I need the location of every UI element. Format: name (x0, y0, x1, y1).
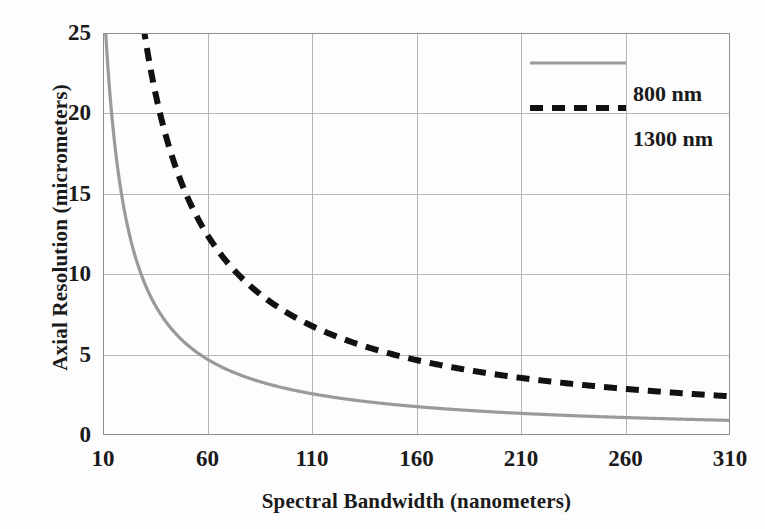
x-tick-label: 160 (382, 447, 452, 470)
x-tick-label: 310 (695, 447, 765, 470)
chart-figure: Axial Resolution (micrometers) Spectral … (0, 0, 765, 529)
legend-label-800nm: 800 nm (633, 81, 702, 107)
x-tick-label: 110 (277, 447, 347, 470)
plot-area: 800 nm 1300 nm (103, 33, 730, 435)
y-tick-label: 15 (45, 182, 91, 205)
y-tick-label: 0 (45, 423, 91, 446)
x-tick-label: 10 (68, 447, 138, 470)
y-axis-title: Axial Resolution (micrometers) (48, 18, 73, 438)
y-tick-label: 20 (45, 101, 91, 124)
y-tick-label: 10 (45, 262, 91, 285)
x-axis-title: Spectral Bandwidth (nanometers) (103, 489, 730, 514)
y-tick-label: 5 (45, 343, 91, 366)
legend-label-1300nm: 1300 nm (633, 126, 713, 152)
x-tick-label: 60 (173, 447, 243, 470)
x-tick-label: 260 (591, 447, 661, 470)
x-tick-label: 210 (486, 447, 556, 470)
y-tick-label: 25 (45, 21, 91, 44)
